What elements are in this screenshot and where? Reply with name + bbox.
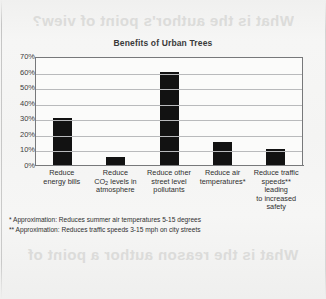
footnote-1: * Approximation: Reduces summer air temp… [9,215,309,225]
y-axis-tick-50: 50% [12,84,35,92]
y-axis-tick-labels: 0%10%20%30%40%50%60%70% [12,52,35,172]
plot-area [35,57,303,166]
gridline-40 [36,105,302,106]
x-axis-label-3: Reduce airtemperatures* [196,169,250,212]
x-axis-label-line: pollutants [143,186,195,195]
footnote-2: ** Approximation: Reduces traffic speeds… [9,225,309,235]
bar[interactable] [53,118,72,165]
gridline-60 [36,74,302,75]
gridline-10 [36,151,302,152]
x-axis-label-line: safety [250,203,302,212]
bar-chart: Benefits of Urban Trees 0%10%20%30%40%50… [0,0,326,299]
chart-title: Benefits of Urban Trees [0,38,326,48]
y-axis-tick-60: 60% [12,69,35,77]
x-axis-label-2: Reduce otherstreet levelpollutants [142,169,196,212]
x-axis-label-line: atmosphere [90,186,142,195]
gridline-20 [36,136,302,137]
x-axis-label-4: Reduce trafficspeeds** leadingto increas… [249,169,303,212]
y-axis-tick-20: 20% [12,131,35,139]
gridline-50 [36,89,302,90]
x-axis-label-line: energy bills [36,178,88,187]
x-axis-label-1: ReduceCO2 levels inatmosphere [89,169,143,212]
x-axis-label-0: Reduceenergy bills [35,169,89,212]
gridline-30 [36,120,302,121]
y-axis-tick-0: 0% [12,162,35,170]
y-axis-tick-10: 10% [12,146,35,154]
bar[interactable] [213,142,232,165]
bar[interactable] [106,157,125,165]
x-axis-category-labels: Reduceenergy billsReduceCO2 levels inatm… [35,169,303,212]
y-axis-tick-40: 40% [12,100,35,108]
x-axis-label-line: temperatures* [197,178,249,187]
y-axis-tick-70: 70% [12,53,35,61]
y-axis-tick-30: 30% [12,115,35,123]
chart-footnotes: * Approximation: Reduces summer air temp… [9,215,309,234]
x-axis-line [35,165,304,166]
x-axis-label-line: speeds** leading [250,178,302,195]
